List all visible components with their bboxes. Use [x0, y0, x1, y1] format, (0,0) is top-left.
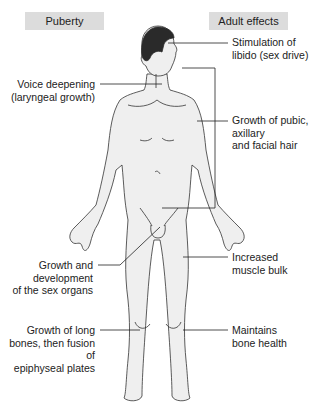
label-muscle: Increased muscle bulk	[232, 251, 287, 276]
label-bone-health: Maintains bone health	[232, 324, 287, 349]
label-muscle-line2: muscle bulk	[232, 264, 287, 277]
label-sex-organs-line1: Growth and	[12, 259, 93, 272]
label-hair-line1: Growth of pubic,	[232, 114, 308, 127]
label-long-bones-line2: bones, then fusion of	[0, 337, 95, 362]
label-libido-line1: Stimulation of	[232, 36, 308, 49]
label-sex-organs-line3: of the sex organs	[12, 284, 93, 297]
label-voice-line2: (laryngeal growth)	[11, 91, 95, 104]
label-bone-health-line2: bone health	[232, 337, 287, 350]
label-muscle-line1: Increased	[232, 251, 287, 264]
label-voice: Voice deepening (laryngeal growth)	[11, 78, 95, 103]
label-long-bones-line1: Growth of long	[0, 324, 95, 337]
label-bone-health-line1: Maintains	[232, 324, 287, 337]
label-hair: Growth of pubic, axillary and facial hai…	[232, 114, 308, 152]
label-libido: Stimulation of libido (sex drive)	[232, 36, 308, 61]
label-libido-line2: libido (sex drive)	[232, 49, 308, 62]
label-hair-line2: axillary	[232, 127, 308, 140]
label-sex-organs-line2: development	[12, 272, 93, 285]
label-long-bones: Growth of long bones, then fusion of epi…	[0, 324, 95, 374]
body-outline	[70, 74, 244, 401]
label-sex-organs: Growth and development of the sex organs	[12, 259, 93, 297]
male-body-figure	[70, 26, 244, 401]
label-long-bones-line3: epiphyseal plates	[0, 362, 95, 375]
label-voice-line1: Voice deepening	[11, 78, 95, 91]
label-hair-line3: and facial hair	[232, 139, 308, 152]
